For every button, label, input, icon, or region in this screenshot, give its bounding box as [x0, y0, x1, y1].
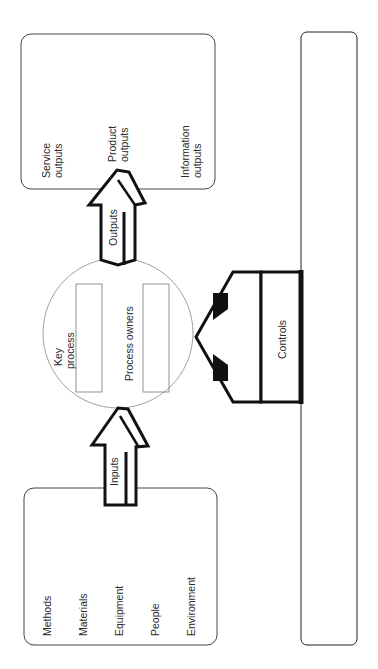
outputs-arrow: Outputs	[89, 170, 145, 265]
input-equipment: Equipment	[113, 586, 125, 636]
inputs-arrow-label: Inputs	[108, 457, 120, 486]
controls-block: Controls	[196, 270, 301, 404]
input-materials: Materials	[77, 593, 89, 636]
control-system-bar	[301, 32, 357, 645]
input-environment: Environment	[185, 577, 197, 636]
process-owners-label: Process owners	[123, 306, 135, 381]
inputs-arrow: Inputs	[92, 408, 148, 505]
service-outputs-label: Service outputs	[40, 140, 64, 178]
product-outputs-label: Product outputs	[106, 123, 130, 162]
inputs-box: Methods Materials Equipment People Envir…	[24, 488, 217, 645]
process-model-diagram: Service outputs Product outputs Informat…	[0, 0, 378, 669]
input-methods: Methods	[41, 596, 53, 636]
outputs-arrow-label: Outputs	[107, 209, 119, 246]
outputs-box: Service outputs Product outputs Informat…	[21, 34, 215, 189]
information-outputs-label: Information outputs	[179, 123, 203, 178]
input-people: People	[149, 603, 161, 636]
controls-label: Controls	[276, 320, 288, 359]
key-process: Key process Process owners	[43, 258, 193, 408]
